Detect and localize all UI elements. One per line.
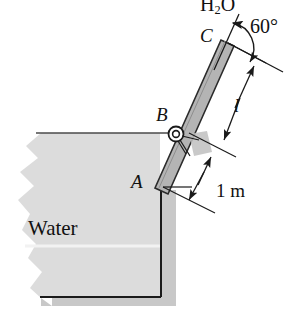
hinge-inner-circle [173, 131, 180, 138]
label-length-l: l [234, 96, 239, 115]
water-shadow-bottom-left [41, 298, 52, 306]
label-point-a: A [131, 172, 143, 191]
dim-l-ext-top [228, 43, 266, 63]
label-point-b: B [156, 105, 168, 124]
figure-drawing-canvas [0, 0, 293, 320]
fluid-head-prefix: H [200, 0, 214, 15]
label-angle-60: 60° [250, 16, 278, 36]
gate-plate-highlight [159, 41, 225, 188]
dim-1m-arrow-down [189, 172, 204, 200]
fluid-head-suffix: O [221, 0, 235, 15]
label-water: Water [28, 218, 78, 239]
hinge-at-b [169, 127, 184, 142]
label-dimension-1m: 1 m [216, 181, 245, 200]
hydrostatic-gate-figure: H2O C 60° B l A 1 m Water [0, 0, 293, 320]
fluid-head-label: H2O [200, 0, 235, 17]
label-point-c: C [200, 26, 213, 45]
